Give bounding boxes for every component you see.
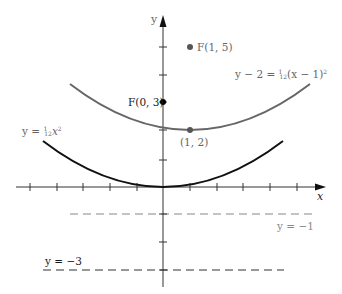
parabola-translation-diagram: x y F(0, 3) F(1, 5) (1, 2) y = 112x2 — [0, 0, 342, 294]
parabola-base-equation: y = 112x2 — [21, 125, 62, 137]
svg-text:y = 112x2: y = 112x2 — [21, 125, 62, 137]
vertex-shifted-point — [187, 127, 193, 133]
x-axis-label: x — [317, 190, 324, 203]
vertex-shifted-label: (1, 2) — [180, 136, 208, 148]
y-axis: y — [150, 13, 167, 287]
parabola-shifted-equation: y − 2 = 112(x − 1)2 — [234, 68, 327, 80]
focus-shifted-point — [187, 44, 193, 50]
focus-base-label: F(0, 3) — [128, 96, 164, 108]
svg-text:y − 2 = 112(x − 1)2: y − 2 = 112(x − 1)2 — [234, 68, 327, 80]
directrix-y-minus-3-label: y = −3 — [44, 255, 82, 267]
focus-shifted-label: F(1, 5) — [197, 41, 233, 53]
directrix-y-minus-1-label: y = −1 — [276, 220, 314, 232]
y-axis-label: y — [150, 13, 158, 26]
y-axis-arrow-icon — [160, 15, 167, 27]
parabola-shifted-curve — [70, 84, 310, 130]
